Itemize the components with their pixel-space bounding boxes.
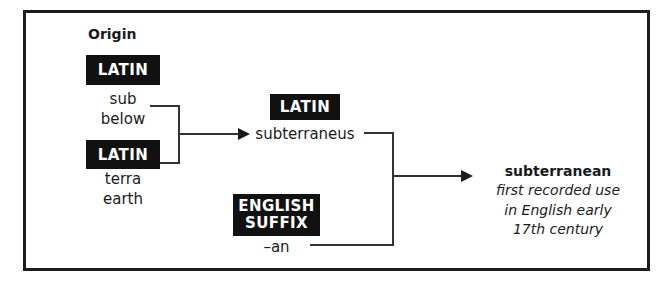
result-headword: subterranean (478, 162, 638, 181)
result-note-line1: first recorded use (478, 181, 638, 200)
tag-english-suffix-line1: ENGLISH (238, 198, 314, 215)
result-note-line2: in English early (478, 201, 638, 220)
origin-label: Origin (88, 26, 136, 42)
suffix-word-an: –an (233, 238, 320, 256)
tag-latin-sub: LATIN (86, 55, 160, 85)
result-note-line3: 17th century (478, 220, 638, 239)
middle-word-subterraneus: subterraneus (245, 125, 365, 143)
tag-english-suffix-line2: SUFFIX (245, 215, 308, 232)
etymology-diagram: Origin LATIN sub below LATIN terra earth… (0, 0, 670, 297)
arrowhead-to-result (461, 170, 473, 182)
merge-bracket-line (310, 133, 393, 245)
tag-latin-subterraneus: LATIN (270, 94, 340, 120)
root-gloss-earth: earth (86, 190, 160, 208)
result-block: subterranean first recorded use in Engli… (478, 162, 638, 239)
tag-english-suffix: ENGLISH SUFFIX (233, 194, 320, 236)
root-word-terra: terra (86, 170, 160, 188)
root-gloss-below: below (86, 110, 160, 128)
root-word-sub: sub (86, 90, 160, 108)
tag-latin-terra: LATIN (86, 140, 160, 169)
